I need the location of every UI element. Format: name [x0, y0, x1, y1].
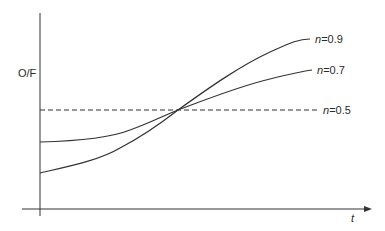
x-axis-arrow-icon [364, 206, 372, 212]
y-axis-label: O/F [18, 67, 37, 79]
legend-n-0.9: n=0.9 [315, 33, 343, 45]
series-n-0.9 [40, 39, 310, 173]
chart: O/F t n=0.9 n=0.7 n=0.5 [0, 0, 385, 231]
x-axis-label: t [351, 212, 355, 224]
legend-n-0.7: n=0.7 [317, 64, 345, 76]
legend-n-0.5: n=0.5 [323, 104, 351, 116]
series-n-0.7 [40, 70, 312, 142]
